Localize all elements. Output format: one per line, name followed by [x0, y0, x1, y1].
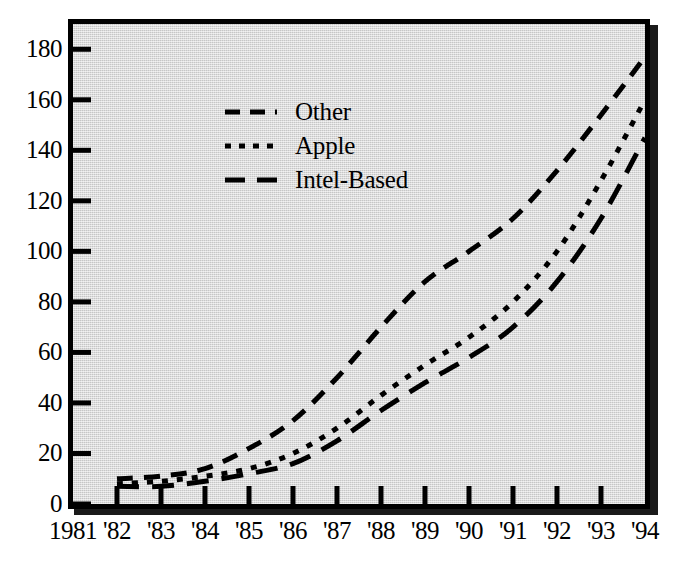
y-axis-tick-label: 40	[4, 390, 62, 415]
y-axis-tick-label: 20	[4, 440, 62, 465]
plot-frame: Other Apple Intel-Based	[68, 19, 650, 509]
y-axis-tick-label: 60	[4, 339, 62, 364]
x-axis-tick-label: '94	[617, 516, 673, 546]
plot-area: Other Apple Intel-Based	[73, 24, 645, 504]
y-axis-tick-label: 140	[4, 137, 62, 162]
y-axis-tick-label: 80	[4, 289, 62, 314]
y-tick-marks	[73, 49, 91, 504]
y-axis-tick-label: 180	[4, 36, 62, 61]
chart-figure: Other Apple Intel-Based	[0, 0, 685, 563]
y-axis-tick-label: 160	[4, 87, 62, 112]
x-tick-marks	[117, 486, 601, 504]
axis-ticks-svg	[73, 24, 645, 504]
x-axis-labels: 1981'82'83'84'85'86'87'88'89'90'91'92'93…	[0, 516, 685, 562]
y-axis-tick-label: 100	[4, 238, 62, 263]
y-axis-labels: 180160140120100806040200	[0, 0, 62, 563]
y-axis-tick-label: 120	[4, 188, 62, 213]
y-axis-tick-label: 0	[4, 491, 62, 516]
